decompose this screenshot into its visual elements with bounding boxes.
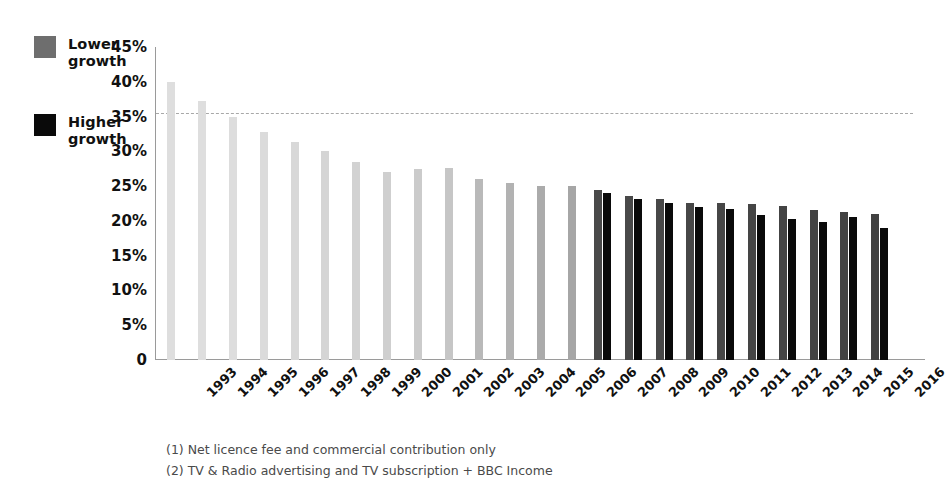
- bars-layer: [156, 47, 895, 360]
- x-axis-tick-label: 2008: [665, 364, 701, 400]
- x-axis-tick-label: 1998: [357, 364, 393, 400]
- plot-area: 05%10%15%20%25%30%35%40%45% 199319941995…: [155, 30, 895, 390]
- bar: [695, 207, 703, 360]
- bar: [665, 203, 673, 360]
- bar: [840, 212, 848, 360]
- x-axis-ticks: 1993199419951996199719981999200020012002…: [156, 360, 895, 390]
- x-axis-tick-label: 2003: [511, 364, 547, 400]
- bar-group: [618, 47, 649, 360]
- bar: [321, 151, 329, 360]
- legend-item-higher-growth: Highergrowth: [34, 114, 174, 148]
- footnotes: (1) Net licence fee and commercial contr…: [166, 440, 553, 481]
- y-axis-tick-label: 15%: [111, 247, 147, 265]
- y-axis-tick-label: 25%: [111, 177, 147, 195]
- bar-group: [526, 47, 557, 360]
- bar: [603, 193, 611, 360]
- x-axis-tick-label: 2007: [634, 364, 670, 400]
- bar-group: [587, 47, 618, 360]
- x-axis-tick-label: 1995: [265, 364, 301, 400]
- bar: [717, 203, 725, 360]
- bar: [748, 204, 756, 361]
- bar: [726, 209, 734, 360]
- bar-group: [803, 47, 834, 360]
- x-axis-tick-label: 1999: [388, 364, 424, 400]
- x-axis-tick-label: 2000: [419, 364, 455, 400]
- bar: [260, 132, 268, 360]
- bar: [819, 222, 827, 360]
- bar: [686, 203, 694, 360]
- legend-swatch-lower-growth: [34, 36, 56, 58]
- bar: [634, 199, 642, 360]
- y-axis-tick-label: 10%: [111, 281, 147, 299]
- x-axis-tick-label: 2006: [604, 364, 640, 400]
- x-axis-tick-label: 2005: [573, 364, 609, 400]
- bar: [414, 169, 422, 360]
- bar: [167, 82, 175, 360]
- y-axis-tick-label: 20%: [111, 212, 147, 230]
- bar: [625, 196, 633, 360]
- bar: [788, 219, 796, 360]
- x-axis-tick-label: 2013: [819, 364, 855, 400]
- x-axis-tick-label: 1994: [234, 364, 270, 400]
- bar: [757, 215, 765, 360]
- bar: [383, 172, 391, 360]
- x-axis-tick-label: 2002: [481, 364, 517, 400]
- x-axis-tick-label: 1993: [203, 364, 239, 400]
- bar-group: [187, 47, 218, 360]
- footnote-1: (1) Net licence fee and commercial contr…: [166, 440, 553, 461]
- bar-group: [402, 47, 433, 360]
- x-axis-tick-label: 2010: [727, 364, 763, 400]
- bar: [291, 142, 299, 360]
- bar-group: [833, 47, 864, 360]
- x-axis-tick-label: 2001: [450, 364, 486, 400]
- bar: [198, 101, 206, 360]
- x-axis-tick-label: 2009: [696, 364, 732, 400]
- bar: [871, 214, 879, 360]
- bar: [779, 206, 787, 360]
- footnote-2: (2) TV & Radio advertising and TV subscr…: [166, 461, 553, 482]
- bar: [880, 228, 888, 360]
- x-axis-tick-label: 1997: [327, 364, 363, 400]
- bar-group: [741, 47, 772, 360]
- bar: [445, 168, 453, 360]
- bar-group: [341, 47, 372, 360]
- bar-group: [279, 47, 310, 360]
- chart-legend: Lowergrowth Highergrowth: [34, 36, 174, 192]
- bar-group: [433, 47, 464, 360]
- bar-group: [772, 47, 803, 360]
- bar-group: [464, 47, 495, 360]
- x-axis-tick-label: 2011: [758, 364, 794, 400]
- bar: [229, 117, 237, 360]
- bar-group: [372, 47, 403, 360]
- bar: [656, 199, 664, 360]
- y-axis-tick-label: 40%: [111, 73, 147, 91]
- bar: [568, 186, 576, 360]
- bar: [352, 162, 360, 360]
- x-axis-tick-label: 1996: [296, 364, 332, 400]
- bar-group: [556, 47, 587, 360]
- x-axis-tick-label: 2004: [542, 364, 578, 400]
- bar-group: [310, 47, 341, 360]
- y-axis-tick-label: 5%: [122, 316, 147, 334]
- bar: [537, 186, 545, 360]
- bar-group: [248, 47, 279, 360]
- bar: [849, 217, 857, 360]
- x-axis-tick-label: 2014: [850, 364, 886, 400]
- bar: [475, 179, 483, 360]
- x-axis-tick-label: 2015: [881, 364, 917, 400]
- y-axis-tick-label: 35%: [111, 108, 147, 126]
- bar-group: [218, 47, 249, 360]
- x-axis-tick-label: 2016: [912, 364, 948, 400]
- bar-group: [156, 47, 187, 360]
- bar: [810, 210, 818, 360]
- y-axis-tick-label: 30%: [111, 142, 147, 160]
- bar: [594, 190, 602, 360]
- y-axis-tick-label: 0: [137, 351, 147, 369]
- y-axis-tick-label: 45%: [111, 38, 147, 56]
- bar: [506, 183, 514, 360]
- bar-group: [864, 47, 895, 360]
- legend-swatch-higher-growth: [34, 114, 56, 136]
- bar-group: [495, 47, 526, 360]
- bar-group: [710, 47, 741, 360]
